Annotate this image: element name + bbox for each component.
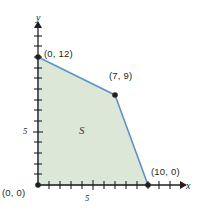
vertex-dot-origin	[35, 182, 41, 188]
vertex-dot-top	[35, 54, 41, 60]
y-axis-tick-label-5: 5	[23, 126, 27, 136]
region-label-s: S	[79, 124, 85, 136]
vertex-label-right: (10, 0)	[151, 166, 180, 177]
vertex-dot-right	[145, 182, 151, 188]
vertex-label-origin: (0, 0)	[2, 187, 25, 198]
region-plot-graphic	[0, 0, 198, 218]
vertex-label-middle: (7, 9)	[109, 70, 132, 81]
x-axis-label: x	[186, 180, 190, 191]
vertex-label-top: (0, 12)	[44, 48, 73, 59]
y-axis-label: y	[36, 12, 40, 23]
vertex-dot-middle	[112, 92, 118, 98]
x-axis-tick-label-5: 5	[85, 193, 89, 203]
coordinate-plane-figure: (0, 12) (7, 9) (10, 0) (0, 0) x y 5 5 S	[0, 0, 198, 218]
